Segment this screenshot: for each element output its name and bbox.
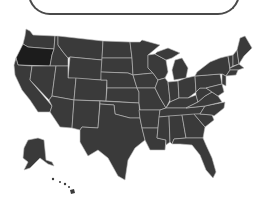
state-new-york[interactable] [195, 56, 230, 76]
us-map [0, 0, 265, 200]
state-ohio[interactable] [178, 76, 196, 98]
state-florida[interactable] [172, 138, 216, 178]
state-michigan[interactable] [172, 58, 188, 80]
state-new-jersey[interactable] [222, 74, 226, 86]
state-colorado[interactable] [74, 78, 107, 101]
state-hawaii[interactable] [52, 178, 75, 194]
state-new-mexico[interactable] [72, 100, 100, 130]
state-alaska[interactable] [23, 138, 54, 170]
state-arkansas[interactable] [139, 110, 160, 128]
state-north-dakota[interactable] [102, 41, 132, 58]
state-arizona[interactable] [49, 96, 74, 128]
state-maine[interactable] [237, 36, 252, 64]
state-kansas[interactable] [106, 88, 139, 103]
state-wyoming[interactable] [68, 57, 102, 80]
state-washington[interactable] [23, 29, 55, 49]
